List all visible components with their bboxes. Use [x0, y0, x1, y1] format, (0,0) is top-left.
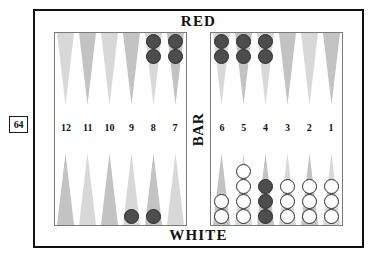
- checker-stack-bottom-point-9[interactable]: [123, 209, 140, 224]
- point-number-6: 6: [211, 122, 233, 133]
- checker-stack-bottom-point-3[interactable]: [279, 179, 296, 224]
- white-checker[interactable]: [214, 209, 229, 224]
- checker-stack-top-point-5[interactable]: [235, 34, 252, 64]
- red-checker[interactable]: [146, 49, 161, 64]
- white-checker[interactable]: [302, 179, 317, 194]
- point-5[interactable]: 5: [233, 33, 255, 225]
- left-half-board: 121110987: [54, 32, 187, 226]
- point-triangle-bottom-10: [101, 153, 118, 225]
- doubling-cube[interactable]: 64: [9, 116, 28, 133]
- point-9[interactable]: 9: [120, 33, 142, 225]
- red-checker[interactable]: [258, 49, 273, 64]
- checker-stack-bottom-point-8[interactable]: [145, 209, 162, 224]
- checker-stack-top-point-8[interactable]: [145, 34, 162, 64]
- checker-stack-top-point-4[interactable]: [257, 34, 274, 64]
- checker-stack-bottom-point-5[interactable]: [235, 164, 252, 224]
- white-checker[interactable]: [302, 194, 317, 209]
- point-6[interactable]: 6: [211, 33, 233, 225]
- red-checker[interactable]: [146, 34, 161, 49]
- white-checker[interactable]: [324, 209, 339, 224]
- point-number-10: 10: [99, 122, 121, 133]
- white-checker[interactable]: [280, 194, 295, 209]
- point-2[interactable]: 2: [298, 33, 320, 225]
- checker-stack-bottom-point-6[interactable]: [213, 194, 230, 224]
- point-triangle-top-3: [279, 33, 296, 105]
- checker-stack-top-point-7[interactable]: [167, 34, 184, 64]
- red-checker[interactable]: [236, 49, 251, 64]
- white-checker[interactable]: [280, 209, 295, 224]
- point-triangle-top-11: [79, 33, 96, 105]
- red-checker[interactable]: [258, 179, 273, 194]
- point-number-7: 7: [164, 122, 186, 133]
- point-8[interactable]: 8: [142, 33, 164, 225]
- white-checker[interactable]: [302, 209, 317, 224]
- point-number-11: 11: [77, 122, 99, 133]
- red-checker[interactable]: [168, 49, 183, 64]
- point-triangle-top-9: [123, 33, 140, 105]
- white-checker[interactable]: [236, 164, 251, 179]
- point-triangle-top-10: [101, 33, 118, 105]
- white-checker[interactable]: [324, 194, 339, 209]
- right-half-board: 654321: [210, 32, 343, 226]
- checker-stack-top-point-6[interactable]: [213, 34, 230, 64]
- playing-surface: 121110987 BAR 654321: [54, 32, 343, 226]
- board-frame: RED WHITE 121110987 BAR 654321: [33, 9, 364, 248]
- point-number-12: 12: [55, 122, 77, 133]
- checker-stack-bottom-point-2[interactable]: [301, 179, 318, 224]
- point-10[interactable]: 10: [99, 33, 121, 225]
- point-triangle-bottom-7: [167, 153, 184, 225]
- point-3[interactable]: 3: [276, 33, 298, 225]
- point-triangle-top-2: [301, 33, 318, 105]
- point-triangle-top-1: [323, 33, 340, 105]
- red-checker[interactable]: [168, 34, 183, 49]
- red-checker[interactable]: [146, 209, 161, 224]
- red-checker[interactable]: [258, 34, 273, 49]
- red-checker[interactable]: [214, 34, 229, 49]
- point-11[interactable]: 11: [77, 33, 99, 225]
- white-player-label: WHITE: [35, 227, 362, 244]
- bar[interactable]: BAR: [187, 32, 210, 226]
- white-checker[interactable]: [236, 179, 251, 194]
- point-triangle-top-12: [57, 33, 74, 105]
- point-number-5: 5: [233, 122, 255, 133]
- white-checker[interactable]: [280, 179, 295, 194]
- point-number-8: 8: [142, 122, 164, 133]
- bar-label: BAR: [190, 112, 207, 145]
- white-checker[interactable]: [324, 179, 339, 194]
- red-checker[interactable]: [258, 194, 273, 209]
- point-number-9: 9: [120, 122, 142, 133]
- point-4[interactable]: 4: [255, 33, 277, 225]
- point-triangle-bottom-12: [57, 153, 74, 225]
- point-1[interactable]: 1: [320, 33, 342, 225]
- point-7[interactable]: 7: [164, 33, 186, 225]
- red-checker[interactable]: [124, 209, 139, 224]
- point-number-3: 3: [276, 122, 298, 133]
- white-checker[interactable]: [236, 209, 251, 224]
- point-number-4: 4: [255, 122, 277, 133]
- point-number-1: 1: [320, 122, 342, 133]
- red-checker[interactable]: [258, 209, 273, 224]
- checker-stack-bottom-point-4[interactable]: [257, 179, 274, 224]
- white-checker[interactable]: [214, 194, 229, 209]
- point-number-2: 2: [298, 122, 320, 133]
- point-triangle-bottom-11: [79, 153, 96, 225]
- red-checker[interactable]: [236, 34, 251, 49]
- checker-stack-bottom-point-1[interactable]: [323, 179, 340, 224]
- white-checker[interactable]: [236, 194, 251, 209]
- red-player-label: RED: [35, 13, 362, 30]
- point-12[interactable]: 12: [55, 33, 77, 225]
- red-checker[interactable]: [214, 49, 229, 64]
